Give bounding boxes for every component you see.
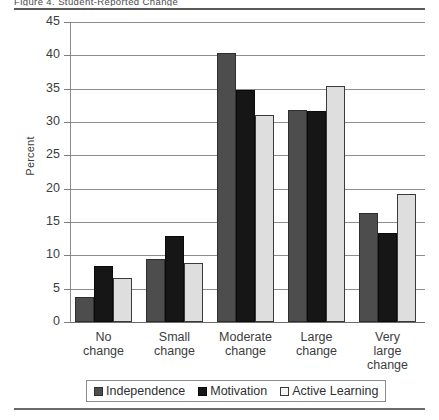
legend-item[interactable]: Independence	[94, 384, 185, 398]
legend-swatch-icon	[198, 387, 207, 396]
y-tick	[64, 322, 71, 323]
bar	[236, 90, 255, 322]
bar	[359, 213, 378, 322]
bar-group	[75, 22, 132, 322]
bar-group	[359, 22, 416, 322]
gridline	[70, 322, 425, 323]
bar	[326, 86, 345, 322]
bar	[255, 115, 274, 322]
bar	[184, 263, 203, 322]
bar	[307, 111, 326, 322]
bar	[75, 297, 94, 322]
bottom-rule	[14, 408, 425, 410]
bar	[217, 53, 236, 322]
bar	[378, 233, 397, 322]
bar	[94, 266, 113, 322]
bar-group	[146, 22, 203, 322]
plot-area	[70, 22, 425, 322]
legend-swatch-icon	[280, 387, 289, 396]
y-tick-label: 45	[30, 15, 60, 28]
y-tick-label: 0	[30, 315, 60, 328]
x-tick-label-line: change	[345, 358, 431, 372]
legend-label: Motivation	[210, 384, 267, 398]
bar	[288, 110, 307, 322]
legend-item[interactable]: Motivation	[198, 384, 267, 398]
legend-swatch-icon	[94, 387, 103, 396]
y-axis-title: Percent	[24, 116, 36, 196]
top-rule	[14, 8, 425, 10]
bar	[165, 236, 184, 322]
x-tick-label-line: large	[345, 344, 431, 358]
y-tick-label: 5	[30, 282, 60, 295]
y-tick-label: 40	[30, 48, 60, 61]
figure-container: Figure 4. Student-Reported Change 051015…	[0, 0, 439, 420]
y-tick-label: 10	[30, 248, 60, 261]
legend-label: Active Learning	[292, 384, 378, 398]
x-tick-label: Verylargechange	[345, 330, 431, 372]
legend-label: Independence	[106, 384, 185, 398]
x-tick-label-line: Very	[345, 330, 431, 344]
bar-group	[217, 22, 274, 322]
bar	[113, 278, 132, 322]
figure-title-clipped: Figure 4. Student-Reported Change	[14, 0, 414, 6]
y-tick-label: 15	[30, 215, 60, 228]
chart-legend: IndependenceMotivationActive Learning	[86, 380, 386, 402]
bar-group	[288, 22, 345, 322]
y-tick-label: 35	[30, 82, 60, 95]
bar	[397, 194, 416, 322]
bar	[146, 259, 165, 322]
legend-item[interactable]: Active Learning	[280, 384, 378, 398]
